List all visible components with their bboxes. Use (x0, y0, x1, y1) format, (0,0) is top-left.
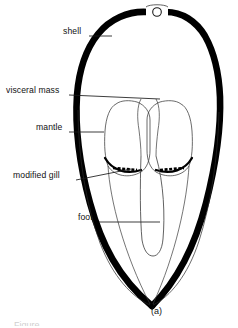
label-modified-gill: modified gill (13, 171, 60, 180)
modified-gill-left (105, 158, 141, 172)
umbo-notch (146, 5, 168, 17)
umbo-circle-icon (153, 8, 162, 17)
leader-line-visceral-mass (69, 95, 160, 99)
figure-container: shell visceral mass mantle modified gill… (0, 0, 238, 328)
cut-off-caption-fragment: Figure (14, 320, 40, 326)
label-visceral-mass: visceral mass (6, 86, 59, 95)
mantle-skirt (108, 166, 189, 304)
visceral-mass-shape (138, 99, 160, 156)
mantle-shape (105, 101, 193, 176)
visceral-mass-outline (138, 99, 160, 156)
anatomy-diagram-svg (0, 0, 238, 328)
shell-right-edge (152, 12, 220, 306)
label-mantle: mantle (36, 123, 62, 132)
shell-shape (77, 12, 221, 306)
umbo-arc (146, 5, 168, 7)
label-foot: foot (78, 213, 93, 222)
label-shell: shell (63, 27, 81, 36)
shell-inner-line-right (153, 112, 219, 305)
modified-gill-right (156, 158, 192, 172)
figure-caption: (a) (151, 306, 162, 316)
